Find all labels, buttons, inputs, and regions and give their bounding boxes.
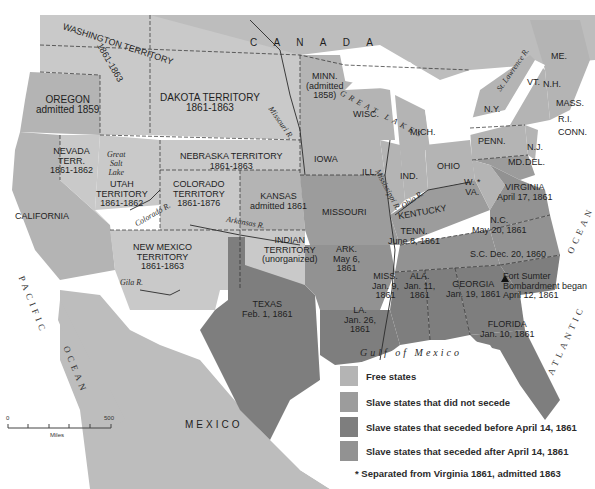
label-dakota: DAKOTA TERRITORY 1861-1863 <box>160 93 260 113</box>
label-oregon: OREGON admitted 1859 <box>36 95 99 115</box>
label-south-carolina: S.C. Dec. 20, 1860 <box>470 250 546 260</box>
legend-item-seceded-after: Slave states that seceded after April 14… <box>340 441 568 461</box>
footnote: * Separated from Virginia 1861, admitted… <box>355 468 561 479</box>
label-north-carolina: N.C. May 20, 1861 <box>472 216 527 235</box>
label-pennsylvania: PENN. <box>478 137 506 147</box>
label-connecticut: CONN. <box>558 128 587 138</box>
florida-date: Jan. 10, 1861 <box>480 330 535 340</box>
label-michigan: MICH. <box>410 128 436 138</box>
label-maryland: MD. <box>508 158 525 168</box>
scale-unit: Miles <box>50 432 64 438</box>
label-great-salt-lake: Great Salt Lake <box>107 150 125 177</box>
label-alabama: ALA. Jan. 11, 1861 <box>404 272 435 301</box>
label-fort-sumter: Fort Sumter Bombardment began April 12, … <box>503 272 587 301</box>
label-new-mexico: NEW MEXICO TERRITORY 1861-1863 <box>133 243 192 272</box>
scale-max: 500 <box>104 415 114 421</box>
label-missouri: MISSOURI <box>322 208 367 218</box>
label-indian-territory: INDIAN TERRITORY (unorganized) <box>262 236 318 265</box>
label-utah: UTAH TERRITORY 1861-1862 <box>96 180 148 209</box>
label-california: CALIFORNIA <box>15 212 69 222</box>
legend-swatch-seceded-after <box>340 441 358 461</box>
label-west-virginia: W. * VA. <box>464 178 481 197</box>
label-new-jersey: N.J. <box>527 143 543 153</box>
wva-abbrev: W. <box>464 177 475 187</box>
kansas-date: admitted 1861 <box>250 202 307 212</box>
nebraska-date: 1861-1863 <box>180 162 283 172</box>
label-florida: FLORIDA Jan. 10, 1861 <box>480 320 535 339</box>
label-texas: TEXAS Feb. 1, 1861 <box>242 300 293 319</box>
legend-swatch-slave-not-secede <box>340 392 358 412</box>
label-minnesota: MINN. (admitted 1858) <box>306 72 344 101</box>
salt-lake-line: Lake <box>107 168 125 177</box>
label-virginia: VIRGINIA April 17, 1861 <box>497 183 553 202</box>
label-maine: ME. <box>551 52 567 62</box>
nevada-date: 1861-1862 <box>50 166 93 176</box>
label-rhode-island: R.I. <box>558 115 572 125</box>
label-gulf-of-mexico: Gulf of Mexico <box>360 348 462 358</box>
tenn-date: June 8, 1861 <box>388 237 440 247</box>
label-colorado: COLORADO TERRITORY 1861-1876 <box>173 180 225 209</box>
legend-swatch-seceded-before <box>340 417 358 437</box>
ark-date2: 1861 <box>333 264 360 274</box>
oregon-date: admitted 1859 <box>36 105 99 115</box>
label-louisiana: LA. Jan. 26, 1861 <box>344 306 376 335</box>
virginia-date: April 17, 1861 <box>497 193 553 203</box>
texas-date: Feb. 1, 1861 <box>242 310 293 320</box>
label-indiana: IND. <box>400 172 418 182</box>
label-new-york: N.Y. <box>484 105 500 115</box>
minn-date2: 1858) <box>306 91 344 101</box>
label-canada: C A N A D A <box>250 38 380 48</box>
legend-swatch-free <box>340 366 358 386</box>
label-delaware: DEL. <box>525 158 545 168</box>
label-massachusetts: MASS. <box>556 99 584 109</box>
wva-asterisk: * <box>477 177 481 187</box>
scale-min: 0 <box>6 415 9 421</box>
colorado-date: 1861-1876 <box>173 199 225 209</box>
wva-name2: VA. <box>464 188 481 198</box>
label-nebraska: NEBRASKA TERRITORY 1861-1863 <box>180 152 283 171</box>
legend-label: Slave states that seceded before April 1… <box>366 422 577 433</box>
legend-label: Slave states that seceded after April 14… <box>366 446 568 457</box>
legend-item-slave-not-secede: Slave states that did not secede <box>340 392 510 412</box>
label-nevada: NEVADA TERR. 1861-1862 <box>50 147 93 176</box>
miss-date2: 1861 <box>372 291 399 301</box>
label-illinois: ILL. <box>362 168 377 178</box>
label-kansas: KANSAS admitted 1861 <box>250 192 307 211</box>
label-wisconsin: WISC. <box>353 110 379 120</box>
label-vermont: VT. <box>527 78 540 88</box>
legend-label: Slave states that did not secede <box>366 397 510 408</box>
label-ohio: OHIO <box>437 162 460 172</box>
georgia-date: Jan. 19, 1861 <box>446 290 501 300</box>
salt-lake-line: Salt <box>107 159 125 168</box>
salt-lake-line: Great <box>107 150 125 159</box>
label-arkansas: ARK. May 6, 1861 <box>333 245 360 274</box>
label-georgia: GEORGIA Jan. 19, 1861 <box>446 280 501 299</box>
legend-item-free: Free states <box>340 366 416 386</box>
dakota-date: 1861-1863 <box>160 103 260 113</box>
label-tennessee: TENN. June 8, 1861 <box>388 227 440 246</box>
label-iowa: IOWA <box>314 155 338 165</box>
la-date2: 1861 <box>344 325 376 335</box>
legend-item-seceded-before: Slave states that seceded before April 1… <box>340 417 577 437</box>
ala-date2: 1861 <box>404 291 435 301</box>
nc-date: May 20, 1861 <box>472 226 527 236</box>
label-mexico: MEXICO <box>185 420 242 430</box>
fort-sumter-line3: April 12, 1861 <box>503 291 587 301</box>
label-mississippi: MISS. Jan. 9, 1861 <box>372 272 399 301</box>
nm-date: 1861-1863 <box>133 262 192 272</box>
utah-date: 1861-1862 <box>96 199 148 209</box>
label-gila-river: Gila R. <box>120 278 143 288</box>
indian-note: (unorganized) <box>262 255 318 265</box>
legend-label: Free states <box>366 371 416 382</box>
label-new-hampshire: N.H. <box>543 80 561 90</box>
